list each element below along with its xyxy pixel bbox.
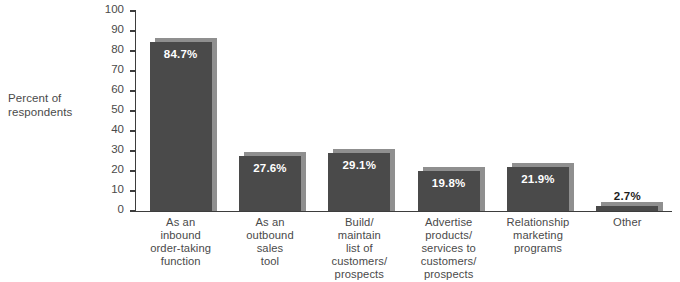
x-axis-label: As anoutboundsalestool bbox=[219, 216, 320, 268]
bar-value-label: 27.6% bbox=[239, 162, 301, 174]
y-tick-mark bbox=[130, 90, 136, 91]
y-tick-mark bbox=[130, 210, 136, 211]
x-axis-label-line: maintain bbox=[309, 229, 410, 242]
x-axis-label-line: outbound bbox=[219, 229, 320, 242]
x-axis-label-line: marketing bbox=[487, 229, 588, 242]
x-axis-label-line: prospects bbox=[309, 268, 410, 281]
bar-group[interactable]: 84.7% bbox=[150, 11, 212, 211]
x-axis-label-line: list of bbox=[309, 242, 410, 255]
x-axis-label: Other bbox=[577, 216, 678, 229]
x-axis-label-line: As an bbox=[219, 216, 320, 229]
cropped-caption-sliver bbox=[240, 0, 540, 4]
bar-group[interactable]: 27.6% bbox=[239, 11, 301, 211]
x-axis-label-line: Advertise bbox=[398, 216, 499, 229]
x-axis-label: As aninboundorder-takingfunction bbox=[130, 216, 231, 268]
y-tick-label: 0 bbox=[94, 203, 124, 215]
bar-group[interactable]: 2.7% bbox=[596, 11, 658, 211]
x-axis-label-line: prospects bbox=[398, 268, 499, 281]
x-axis-label-line: inbound bbox=[130, 229, 231, 242]
plot-area: 0102030405060708090100 84.7%27.6%29.1%19… bbox=[136, 11, 672, 211]
x-axis-label: Build/maintainlist ofcustomers/prospects bbox=[309, 216, 410, 281]
bar-value-label: 19.8% bbox=[418, 177, 480, 189]
y-tick-mark bbox=[130, 130, 136, 131]
y-tick-label: 40 bbox=[94, 123, 124, 135]
bar[interactable] bbox=[596, 206, 658, 211]
bar-value-label: 84.7% bbox=[150, 48, 212, 60]
x-axis-label-line: order-taking bbox=[130, 242, 231, 255]
x-axis-label: Advertiseproducts/services tocustomers/p… bbox=[398, 216, 499, 281]
y-tick-label: 70 bbox=[94, 63, 124, 75]
y-tick-label: 20 bbox=[94, 163, 124, 175]
y-axis-title-line-1: Percent of bbox=[8, 91, 104, 105]
bar-chart: Percent of respondents 01020304050607080… bbox=[0, 0, 680, 282]
y-tick-label: 60 bbox=[94, 83, 124, 95]
x-axis-label-line: tool bbox=[219, 255, 320, 268]
y-tick-mark bbox=[130, 150, 136, 151]
x-axis-label-line: sales bbox=[219, 242, 320, 255]
y-tick-label: 100 bbox=[94, 3, 124, 15]
y-tick-mark bbox=[130, 70, 136, 71]
y-tick-label: 50 bbox=[94, 103, 124, 115]
y-tick-mark bbox=[130, 10, 136, 11]
x-axis-label-line: programs bbox=[487, 242, 588, 255]
y-tick-label: 90 bbox=[94, 23, 124, 35]
y-axis-title: Percent of respondents bbox=[8, 91, 104, 119]
bar-value-label: 29.1% bbox=[328, 159, 390, 171]
bar-group[interactable]: 19.8% bbox=[418, 11, 480, 211]
y-tick-mark bbox=[130, 110, 136, 111]
bar[interactable] bbox=[150, 42, 212, 211]
x-axis-label-line: Other bbox=[577, 216, 678, 229]
y-tick-mark bbox=[130, 190, 136, 191]
x-axis-label-line: services to bbox=[398, 242, 499, 255]
x-axis-label-line: Build/ bbox=[309, 216, 410, 229]
y-tick-mark bbox=[130, 50, 136, 51]
y-tick-mark bbox=[130, 170, 136, 171]
y-tick-mark bbox=[130, 30, 136, 31]
x-axis-label: Relationshipmarketingprograms bbox=[487, 216, 588, 255]
x-axis-label-line: customers/ bbox=[309, 255, 410, 268]
bar-group[interactable]: 21.9% bbox=[507, 11, 569, 211]
bar-value-label: 2.7% bbox=[596, 190, 658, 202]
x-axis-label-line: products/ bbox=[398, 229, 499, 242]
y-tick-label: 30 bbox=[94, 143, 124, 155]
y-tick-label: 80 bbox=[94, 43, 124, 55]
x-axis-label-line: Relationship bbox=[487, 216, 588, 229]
x-axis-label-line: customers/ bbox=[398, 255, 499, 268]
y-axis-title-line-2: respondents bbox=[8, 105, 104, 119]
y-tick-label: 10 bbox=[94, 183, 124, 195]
x-axis-label-line: function bbox=[130, 255, 231, 268]
x-axis-label-line: As an bbox=[130, 216, 231, 229]
bar-group[interactable]: 29.1% bbox=[328, 11, 390, 211]
bar-value-label: 21.9% bbox=[507, 173, 569, 185]
